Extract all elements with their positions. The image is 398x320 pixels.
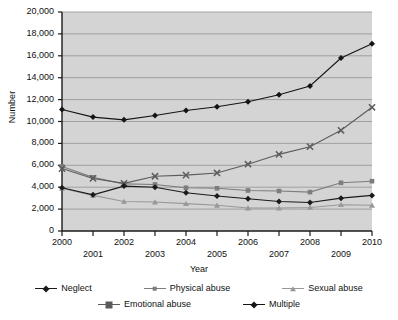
x-tick-label: 2001 xyxy=(73,250,113,259)
line-chart-figure: Number 02,0004,0006,0008,00010,00012,000… xyxy=(0,0,398,320)
x-tick-label: 2007 xyxy=(259,250,299,259)
cross-marker-icon xyxy=(98,299,120,310)
x-tick-label: 2000 xyxy=(42,238,82,247)
x-tick-label: 2008 xyxy=(290,238,330,247)
diamond-marker-icon xyxy=(35,283,57,294)
legend-item-emotional-abuse[interactable]: Emotional abuse xyxy=(98,297,191,312)
legend-label: Sexual abuse xyxy=(308,284,363,293)
square-marker-icon xyxy=(144,283,166,294)
legend-item-sexual-abuse[interactable]: Sexual abuse xyxy=(282,281,363,296)
x-tick-label: 2009 xyxy=(321,250,361,259)
legend-item-multiple[interactable]: Multiple xyxy=(243,297,300,312)
triangle-marker-icon xyxy=(282,283,304,294)
legend-label: Emotional abuse xyxy=(124,300,191,309)
x-tick-label: 2006 xyxy=(228,238,268,247)
legend-item-neglect[interactable]: Neglect xyxy=(35,281,92,296)
filled-diamond-marker-icon xyxy=(243,299,265,310)
x-tick-label: 2005 xyxy=(197,250,237,259)
x-tick-label: 2003 xyxy=(135,250,175,259)
legend-label: Multiple xyxy=(269,300,300,309)
x-axis-title: Year xyxy=(0,264,398,274)
x-tick-label: 2002 xyxy=(104,238,144,247)
legend-row-secondary: Emotional abuseMultiple xyxy=(0,297,398,312)
legend-label: Neglect xyxy=(61,284,92,293)
legend-label: Physical abuse xyxy=(170,284,231,293)
legend-row-primary: NeglectPhysical abuseSexual abuse xyxy=(0,281,398,296)
legend-item-physical-abuse[interactable]: Physical abuse xyxy=(144,281,231,296)
x-tick-label: 2010 xyxy=(352,238,392,247)
x-tick-label: 2004 xyxy=(166,238,206,247)
chart-legend: NeglectPhysical abuseSexual abuse Emotio… xyxy=(0,281,398,315)
